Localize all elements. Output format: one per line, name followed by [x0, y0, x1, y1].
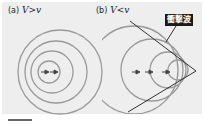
wavefronts-a	[18, 30, 102, 114]
shock-wave-label: 衝撃波	[165, 14, 193, 26]
arrows-a	[41, 70, 58, 74]
label-a: (a) V>v	[8, 5, 41, 15]
label-b: (b) V<v	[96, 5, 129, 15]
wavefronts-b	[90, 26, 188, 114]
footer-rule	[8, 119, 32, 121]
arrows-b	[132, 70, 170, 74]
